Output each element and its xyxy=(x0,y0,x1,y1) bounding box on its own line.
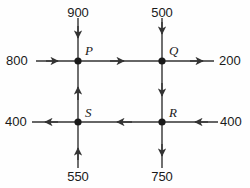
edge-group-external-lines xyxy=(32,18,218,168)
node-dot-r xyxy=(158,118,165,125)
node-label-p: P xyxy=(85,44,93,57)
flow-label-in-bottom-s: 550 xyxy=(67,170,89,183)
node-label-s: S xyxy=(85,106,92,119)
node-label-q: Q xyxy=(169,44,178,57)
flow-diagram-graphics xyxy=(0,0,250,188)
flow-diagram-canvas: 900 500 800 200 400 400 550 750 P Q S R xyxy=(0,0,250,188)
flow-label-in-right-r: 400 xyxy=(220,115,242,128)
node-dot-q xyxy=(158,57,165,64)
flow-label-out-bottom-r: 750 xyxy=(151,170,173,183)
flow-label-in-top-p: 900 xyxy=(67,6,89,19)
node-dot-s xyxy=(74,118,81,125)
flow-label-in-left-p: 800 xyxy=(6,54,28,67)
flow-label-in-top-q: 500 xyxy=(151,6,173,19)
flow-label-out-right-q: 200 xyxy=(219,54,241,67)
arrowhead-group xyxy=(45,22,208,160)
node-dot-p xyxy=(74,57,81,64)
flow-label-out-left-s: 400 xyxy=(5,115,27,128)
node-label-r: R xyxy=(169,106,177,119)
